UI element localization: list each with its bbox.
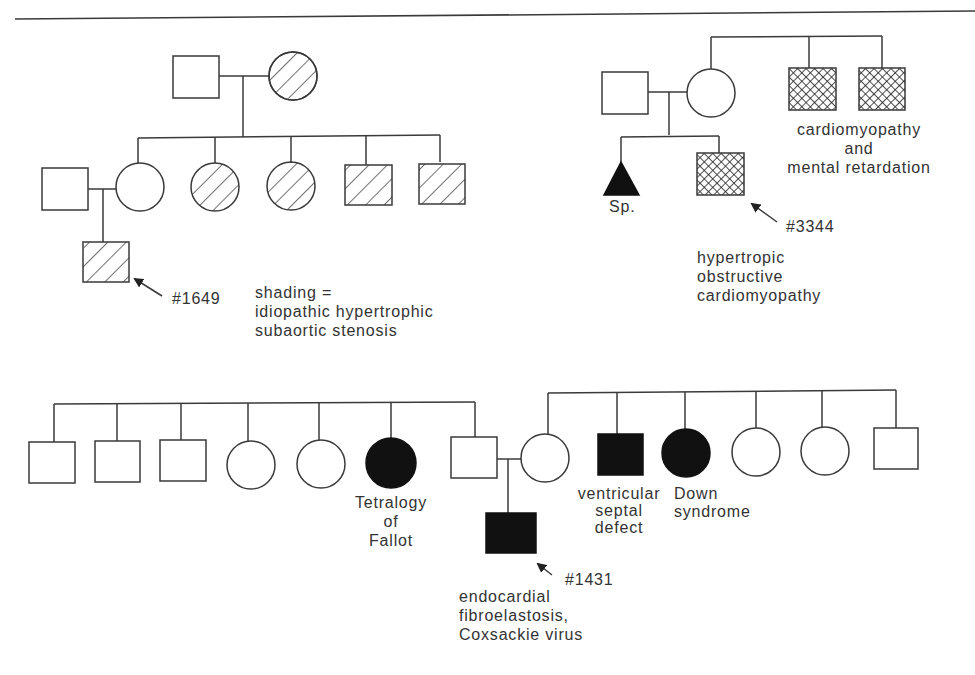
proband-arrow xyxy=(752,204,777,222)
sp-label: Sp. xyxy=(609,197,635,217)
aunt-circle xyxy=(801,427,849,475)
pedigree-3 xyxy=(29,390,918,575)
uncle-square-affected xyxy=(859,68,905,110)
diagnosis-label: endocardial xyxy=(459,587,551,607)
aunt-circle-affected xyxy=(366,438,416,488)
proband-1649-square xyxy=(83,242,129,282)
header-rule xyxy=(15,11,975,19)
diagnosis-label: Fallot xyxy=(341,531,441,551)
mother-circle xyxy=(687,69,735,117)
uncle-square xyxy=(874,428,918,469)
legend-line: shading = xyxy=(255,283,332,303)
uncle-square xyxy=(95,441,140,482)
aunt-circle-affected xyxy=(267,162,315,210)
diagnosis-label: Down xyxy=(674,484,718,504)
diagnosis-label: Tetralogy xyxy=(341,493,441,513)
aunt-circle xyxy=(227,441,275,489)
diagnosis-label: hypertropic xyxy=(697,248,785,268)
proband-1431-square xyxy=(486,513,536,553)
proband-id-label: #1431 xyxy=(565,570,614,590)
uncle-square xyxy=(29,442,75,483)
diagnosis-label: cardiomyopathy xyxy=(697,286,821,306)
diagnosis-label: cardiomyopathy xyxy=(778,120,940,140)
legend-line: subaortic stenosis xyxy=(255,321,397,341)
father-square xyxy=(451,437,497,478)
diagnosis-label: and xyxy=(778,139,940,159)
uncle-square-affected xyxy=(598,434,643,475)
diagnosis-label: syndrome xyxy=(674,502,751,522)
proband-id-label: #3344 xyxy=(786,217,835,237)
proband-id-label: #1649 xyxy=(172,289,221,309)
uncle-square-affected xyxy=(789,68,836,110)
mother-circle xyxy=(521,434,569,482)
aunt-circle-affected xyxy=(191,163,239,211)
uncle-square-affected xyxy=(345,165,392,205)
diagnosis-label: of xyxy=(341,512,441,532)
diagnosis-label: mental retardation xyxy=(778,158,940,178)
proband-arrow xyxy=(538,564,552,575)
diagnosis-label: fibroelastosis, xyxy=(459,606,569,626)
diagnosis-label: defect xyxy=(574,518,664,538)
mother-circle xyxy=(116,163,164,211)
spontaneous-abortion-triangle xyxy=(604,162,639,195)
aunt-circle xyxy=(732,428,780,476)
proband-3344-square xyxy=(697,153,744,195)
uncle-square xyxy=(160,440,206,481)
aunt-circle-affected xyxy=(662,429,710,477)
father-square xyxy=(602,72,648,114)
father-square xyxy=(42,168,88,210)
pedigree-1 xyxy=(42,52,465,296)
diagnosis-label: obstructive xyxy=(697,267,783,287)
grandfather-square xyxy=(173,56,219,98)
pedigree-diagram xyxy=(0,0,975,675)
diagnosis-label: Coxsackie virus xyxy=(459,625,583,645)
legend-line: idiopathic hypertrophic xyxy=(255,302,434,322)
uncle-square-affected xyxy=(419,164,465,204)
proband-arrow xyxy=(135,279,162,296)
aunt-circle xyxy=(297,440,345,488)
